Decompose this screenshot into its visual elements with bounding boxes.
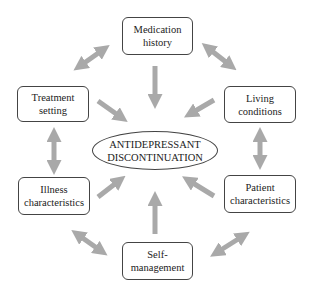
node-label: characteristics	[24, 196, 84, 209]
node-label: conditions	[238, 105, 282, 118]
node-label: Illness	[24, 183, 84, 196]
center-label: DISCONTINUATION	[107, 151, 203, 164]
arrow-patient-to-center	[188, 180, 214, 196]
node-label: history	[134, 36, 182, 49]
node-label: Treatment	[32, 91, 75, 104]
node-living-conditions: Livingconditions	[224, 86, 296, 123]
node-label: management	[131, 261, 185, 274]
node-label: Self-	[131, 248, 185, 261]
arrow-self-illness	[77, 234, 101, 251]
node-patient-characteristics: Patientcharacteristics	[224, 175, 296, 213]
node-treatment-setting: Treatmentsetting	[17, 86, 89, 122]
node-label: Medication	[134, 23, 182, 36]
arrow-patient-self	[216, 236, 243, 253]
node-medication-history: Medicationhistory	[122, 17, 193, 55]
arrow-treatment-to-center	[98, 101, 122, 118]
arrow-medication-living	[208, 48, 231, 66]
node-label: setting	[32, 104, 75, 117]
center-antidepressant-discontinuation: ANTIDEPRESSANTDISCONTINUATION	[92, 131, 218, 170]
node-label: Living	[238, 92, 282, 105]
node-self-management: Self-management	[122, 242, 193, 280]
arrow-illness-to-center	[98, 180, 120, 197]
node-illness-characteristics: Illnesscharacteristics	[18, 177, 90, 215]
arrow-living-to-center	[190, 100, 214, 114]
node-label: characteristics	[230, 194, 290, 207]
center-label: ANTIDEPRESSANT	[107, 138, 203, 151]
arrow-treatment-medication	[80, 49, 104, 66]
node-label: Patient	[230, 181, 290, 194]
